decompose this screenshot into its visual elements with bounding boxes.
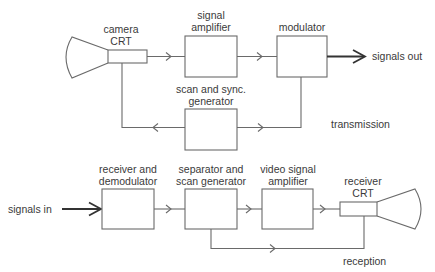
video-amp-label-line1: video signal: [254, 163, 322, 175]
camera-crt-label-line1: camera: [101, 23, 141, 35]
separator-scan-generator-label: separator and scan generator: [171, 163, 251, 187]
signal-amplifier-label: signal amplifier: [181, 9, 241, 33]
receiver-demod-label-line1: receiver and: [92, 163, 164, 175]
tv-block-diagram: [0, 0, 435, 272]
signals-in-label: signals in: [8, 203, 52, 215]
separator-label-line1: separator and: [171, 163, 251, 175]
connector-demodulator-to-separator: [154, 205, 185, 213]
connector-separator-to-video-amplifier: [237, 205, 262, 213]
reception-text: reception: [343, 255, 386, 267]
receiver-crt-label: receiver CRT: [338, 175, 388, 199]
video-signal-amplifier-label: video signal amplifier: [254, 163, 322, 187]
scan-sync-generator-label: scan and sync. generator: [171, 83, 251, 107]
video-amp-label-line2: amplifier: [254, 175, 322, 187]
modulator-box: [277, 36, 327, 77]
receiver-crt-label-line2: CRT: [338, 187, 388, 199]
signals-out-arrow-icon: [327, 50, 365, 63]
scan-sync-label-line2: generator: [171, 95, 251, 107]
modulator-label: modulator: [270, 21, 334, 33]
signals-out-text: signals out: [372, 50, 422, 62]
signal-amplifier-box: [185, 36, 237, 77]
modulator-label-line1: modulator: [270, 21, 334, 33]
reception-section-label: reception: [343, 255, 386, 267]
signals-in-arrow-icon: [62, 203, 101, 216]
signals-in-text: signals in: [8, 203, 52, 215]
scan-sync-label-line1: scan and sync.: [171, 83, 251, 95]
camera-crt-label-line2: CRT: [101, 35, 141, 47]
signal-amplifier-label-line2: amplifier: [181, 21, 241, 33]
connector-video-amplifier-to-crt: [313, 205, 340, 213]
separator-label-line2: scan generator: [171, 175, 251, 187]
separator-scan-generator-box: [185, 189, 237, 229]
connector-camera-to-amplifier: [147, 53, 185, 61]
scan-sync-generator-box: [185, 109, 237, 150]
connector-amplifier-to-modulator: [237, 53, 277, 61]
signals-out-label: signals out: [372, 50, 422, 62]
camera-crt-label: camera CRT: [101, 23, 141, 47]
transmission-text: transmission: [331, 118, 390, 130]
video-signal-amplifier-box: [262, 189, 313, 229]
receiver-demodulator-box: [102, 189, 154, 229]
transmission-section-label: transmission: [331, 118, 390, 130]
signal-amplifier-label-line1: signal: [181, 9, 241, 21]
receiver-demodulator-label: receiver and demodulator: [92, 163, 164, 187]
receiver-demod-label-line2: demodulator: [92, 175, 164, 187]
receiver-crt-label-line1: receiver: [338, 175, 388, 187]
